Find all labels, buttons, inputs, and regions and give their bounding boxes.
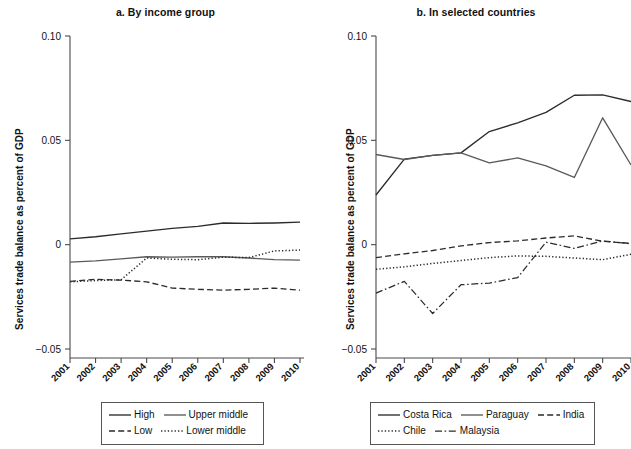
legend-entry-chile[interactable]: Chile xyxy=(378,426,426,436)
legend-entry-lower-middle[interactable]: Lower middle xyxy=(161,426,245,436)
legend-label: Chile xyxy=(403,426,426,436)
legend-label: India xyxy=(563,410,585,420)
legend-swatch-low xyxy=(109,426,131,436)
y-tick-label: 0 xyxy=(55,239,61,250)
series-line-chile xyxy=(376,254,631,269)
x-tick-label: 2004 xyxy=(440,360,463,383)
legend-swatch-high xyxy=(109,410,131,420)
legend-entry-india[interactable]: India xyxy=(538,410,585,420)
legend-swatch-paraguay xyxy=(461,410,483,420)
legend-entry-high[interactable]: High xyxy=(109,410,155,420)
figure-container: a. By income group Services trade balanc… xyxy=(0,0,631,449)
x-tick-label: 2010 xyxy=(279,361,302,384)
series-line-india xyxy=(376,236,631,258)
y-tick-label: 0.05 xyxy=(42,135,62,146)
x-tick-label: 2002 xyxy=(383,361,406,384)
legend-label: Malaysia xyxy=(460,426,499,436)
x-tick-label: 2010 xyxy=(610,361,631,384)
legend-row: ChileMalaysia xyxy=(378,423,587,439)
x-tick-label: 2008 xyxy=(228,361,251,384)
legend-entry-low[interactable]: Low xyxy=(109,426,152,436)
series-line-high xyxy=(70,222,300,239)
x-tick-label: 2004 xyxy=(125,360,148,383)
panel-b-legend: Costa RicaParaguayIndiaChileMalaysia xyxy=(370,402,595,445)
legend-label: Upper middle xyxy=(189,410,248,420)
series-line-malaysia xyxy=(376,241,631,314)
x-tick-label: 2007 xyxy=(525,361,548,384)
legend-entry-costa-rica[interactable]: Costa Rica xyxy=(378,410,452,420)
panel-b-plot: 0.100.050−0.0520012002200320042005200620… xyxy=(331,0,631,449)
x-tick-label: 2009 xyxy=(253,361,276,384)
legend-row: HighUpper middle xyxy=(109,407,256,423)
y-tick-label: −0.05 xyxy=(36,344,62,355)
series-line-costa-rica xyxy=(376,95,631,195)
x-tick-label: 2001 xyxy=(49,360,72,383)
x-tick-label: 2007 xyxy=(202,361,225,384)
x-tick-label: 2001 xyxy=(355,360,378,383)
legend-label: Lower middle xyxy=(186,426,245,436)
x-tick-label: 2005 xyxy=(151,360,174,383)
legend-row: Costa RicaParaguayIndia xyxy=(378,407,587,423)
x-tick-label: 2006 xyxy=(496,361,519,384)
legend-row: LowLower middle xyxy=(109,423,256,439)
chart-panel-b: b. In selected countries Services trade … xyxy=(331,0,631,449)
x-tick-label: 2009 xyxy=(581,361,604,384)
x-tick-label: 2005 xyxy=(468,360,491,383)
panel-a-legend: HighUpper middleLowLower middle xyxy=(101,402,264,445)
y-tick-label: 0.05 xyxy=(348,135,368,146)
y-tick-label: 0.10 xyxy=(42,31,62,42)
legend-entry-upper-middle[interactable]: Upper middle xyxy=(164,410,248,420)
legend-entry-paraguay[interactable]: Paraguay xyxy=(461,410,529,420)
legend-label: Costa Rica xyxy=(403,410,452,420)
x-tick-label: 2006 xyxy=(176,361,199,384)
legend-entry-malaysia[interactable]: Malaysia xyxy=(435,426,499,436)
legend-swatch-lower-middle xyxy=(161,426,183,436)
legend-label: Low xyxy=(134,426,152,436)
legend-swatch-costa-rica xyxy=(378,410,400,420)
x-tick-label: 2003 xyxy=(100,361,123,384)
legend-swatch-upper-middle xyxy=(164,410,186,420)
legend-swatch-india xyxy=(538,410,560,420)
series-line-lower-middle xyxy=(70,250,300,282)
y-tick-label: 0.10 xyxy=(348,31,368,42)
chart-panel-a: a. By income group Services trade balanc… xyxy=(0,0,331,449)
legend-label: High xyxy=(134,410,155,420)
x-tick-label: 2003 xyxy=(411,361,434,384)
legend-swatch-chile xyxy=(378,426,400,436)
legend-label: Paraguay xyxy=(486,410,529,420)
x-tick-label: 2002 xyxy=(74,361,97,384)
y-tick-label: 0 xyxy=(361,239,367,250)
legend-swatch-malaysia xyxy=(435,426,457,436)
panel-a-plot: 0.100.050−0.0520012002200320042005200620… xyxy=(0,0,331,449)
x-tick-label: 2008 xyxy=(553,361,576,384)
y-tick-label: −0.05 xyxy=(342,344,368,355)
